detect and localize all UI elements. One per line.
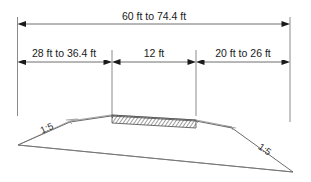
left-approach-dimension-label: 28 ft to 36.4 ft [32,47,96,59]
segment-dimension-group: 28 ft to 36.4 ft 12 ft 20 ft to 26 ft [18,47,291,65]
overall-dimension-label: 60 ft to 74.4 ft [122,10,186,22]
engineering-drawing: 60 ft to 74.4 ft 28 ft to 36.4 ft 12 ft … [0,0,311,182]
right-approach-dimension-label: 20 ft to 26 ft [215,47,271,59]
flat-top-dimension-label: 12 ft [144,47,165,59]
